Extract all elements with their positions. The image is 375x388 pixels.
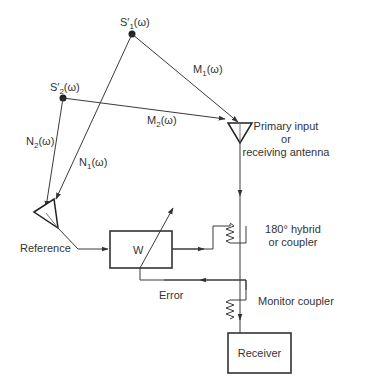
primary-antenna-label-1: Primary input	[254, 120, 319, 132]
lower-resistor-icon	[226, 280, 246, 319]
source-s1-label: S′1(ω)	[120, 16, 150, 31]
weight-block-label: W	[133, 244, 144, 256]
path-n2	[46, 98, 63, 207]
reference-antenna-icon	[34, 199, 58, 228]
primary-antenna-label-2: or	[281, 133, 291, 145]
error-label: Error	[159, 289, 184, 301]
primary-antenna-icon	[228, 123, 252, 143]
source-s2-label: S′2(ω)	[50, 81, 80, 96]
path-m1-label: M1(ω)	[193, 63, 223, 78]
path-n1-label: N1(ω)	[79, 156, 107, 171]
error-to-weight-line	[140, 268, 200, 280]
primary-antenna-label-3: receiving antenna	[243, 146, 331, 158]
path-m2	[63, 98, 225, 119]
monitor-coupler-label: Monitor coupler	[258, 295, 334, 307]
path-m2-label: M2(ω)	[147, 114, 177, 129]
weight-output-line	[172, 226, 230, 249]
reference-label: Reference	[20, 242, 71, 254]
receiver-label: Receiver	[238, 347, 282, 359]
hybrid-label-1: 180° hybrid	[265, 223, 321, 235]
hybrid-label-2: or coupler	[269, 236, 318, 248]
path-n2-label: N2(ω)	[26, 135, 54, 150]
adaptive-canceller-diagram: S′1(ω) S′2(ω) M1(ω) M2(ω) N1(ω) N2(ω) Pr…	[0, 0, 375, 388]
path-n1	[56, 34, 132, 199]
